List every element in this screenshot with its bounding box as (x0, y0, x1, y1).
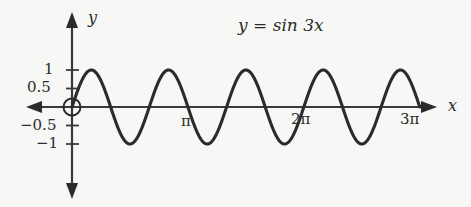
plot-canvas (0, 0, 471, 207)
x-axis (26, 101, 437, 113)
y-tick-label-1: 1 (44, 62, 54, 77)
y-axis-bottom-arrowhead (66, 183, 78, 199)
function-equation-label: y = sin 3x (238, 17, 324, 34)
y-tick-label-neg1: −1 (36, 136, 58, 151)
sine-graph-figure: 1 0.5 −0.5 −1 π 2π 3π y x y = sin 3x (0, 0, 471, 207)
x-tick-label-pi: π (181, 114, 191, 129)
y-axis-name-label: y (88, 10, 97, 26)
y-tick-label-0.5: 0.5 (27, 80, 51, 95)
x-tick-label-2pi: 2π (291, 112, 310, 127)
x-axis-name-label: x (448, 98, 457, 114)
x-tick-label-3pi: 3π (400, 112, 419, 127)
y-tick-label-neg0.5: −0.5 (20, 118, 56, 133)
x-axis-right-arrowhead (421, 101, 437, 113)
x-axis-left-arrowhead (26, 101, 42, 113)
y-axis-top-arrowhead (66, 12, 78, 28)
